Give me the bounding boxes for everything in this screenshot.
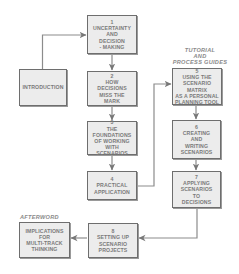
node-label: USING THE SCENARIO MATRIX AS A PERSONAL … <box>174 74 220 105</box>
flow-diagram: TUTORIAL AND PROCESS GUIDES AFTERWORD IN… <box>0 0 239 274</box>
node-label: APPLYING SCENARIOS TO DECISIONS <box>181 180 213 205</box>
node-2-how-decisions-miss-the-mark: 2 HOW DECISIONS MISS THE MARK <box>87 71 137 106</box>
node-implications-for-multi-track-thinking: IMPLICATIONS FOR MULTI-TRACK THINKING <box>19 222 70 258</box>
edge-4-to-5 <box>138 84 171 186</box>
node-label: CREATING AND WRITING SCENARIOS <box>181 130 213 155</box>
node-label: THE FOUNDATIONS OF WORKING WITH SCENARIO… <box>89 126 135 157</box>
node-6-creating-and-writing-scenarios: 6 CREATING AND WRITING SCENARIOS <box>172 120 221 159</box>
node-5-using-the-scenario-matrix: 5 USING THE SCENARIO MATRIX AS A PERSONA… <box>172 68 222 105</box>
node-3-foundations-of-working-with-scenarios: 3 THE FOUNDATIONS OF WORKING WITH SCENAR… <box>87 121 137 155</box>
node-8-setting-up-scenario-projects: 8 SETTING UP SCENARIO PROJECTS <box>88 223 138 258</box>
edge-intro-to-1 <box>43 35 87 69</box>
node-label: IMPLICATIONS FOR MULTI-TRACK THINKING <box>26 228 64 253</box>
heading-tutorial-process-guides: TUTORIAL AND PROCESS GUIDES <box>168 47 232 66</box>
heading-afterword: AFTERWORD <box>20 214 70 220</box>
node-1-uncertainty-and-decision-making: 1 UNCERTAINTY AND DECISION - MAKING <box>87 15 137 54</box>
edge-7-to-8 <box>139 208 197 238</box>
node-label: INTRODUCTION <box>23 84 64 90</box>
node-label: SETTING UP SCENARIO PROJECTS <box>97 234 129 253</box>
node-7-applying-scenarios-to-decisions: 7 APPLYING SCENARIOS TO DECISIONS <box>172 171 221 208</box>
node-label: UNCERTAINTY AND DECISION - MAKING <box>93 25 131 50</box>
node-4-practical-application: 4 PRACTICAL APPLICATION <box>87 171 137 200</box>
node-label: PRACTICAL APPLICATION <box>94 182 130 194</box>
node-introduction: INTRODUCTION <box>19 69 67 106</box>
node-label: HOW DECISIONS MISS THE MARK <box>97 79 126 104</box>
